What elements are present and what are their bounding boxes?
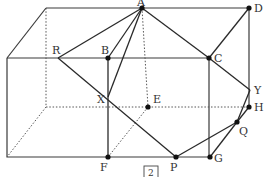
segment-A-X: [108, 8, 142, 97]
segment-A-R: [58, 8, 142, 58]
segment-D-C: [209, 8, 249, 58]
hidden-bottom-left-edge: [7, 107, 46, 157]
point-P: [173, 154, 178, 159]
label-Y: Y: [253, 84, 262, 97]
segments: [58, 8, 250, 157]
label-G: G: [214, 152, 223, 165]
hidden-edges: [7, 8, 249, 157]
box-edges: [7, 8, 249, 157]
segment-Q-H: [237, 107, 249, 122]
label-P: P: [170, 161, 178, 174]
label-E: E: [153, 93, 161, 106]
labels: A B C D E F G H P Q R X Y: [52, 0, 264, 174]
point-F: [105, 154, 110, 159]
hidden-E-F: [108, 107, 148, 157]
label-C: C: [214, 52, 222, 65]
label-R: R: [52, 44, 61, 57]
figure-caption: 2: [144, 166, 158, 177]
segment-P-Q: [176, 122, 237, 157]
point-D: [246, 5, 251, 10]
point-C: [206, 55, 211, 60]
label-D: D: [254, 2, 263, 15]
label-F: F: [100, 161, 108, 174]
label-Q: Q: [239, 125, 248, 138]
point-Q: [234, 119, 239, 124]
point-H: [246, 104, 251, 109]
label-H: H: [254, 101, 264, 114]
segment-A-C: [142, 8, 209, 58]
caption-number: 2: [148, 168, 154, 177]
segment-A-B: [108, 8, 142, 58]
label-A: A: [136, 0, 146, 9]
point-E: [145, 104, 150, 109]
point-G: [207, 154, 212, 159]
label-B: B: [101, 44, 109, 57]
geometry-diagram: A B C D E F G H P Q R X Y 2: [0, 0, 267, 177]
top-left-edge: [7, 8, 46, 58]
label-X: X: [97, 93, 105, 106]
